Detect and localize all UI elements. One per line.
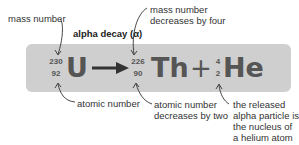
arrow-to-parent-mass-icon xyxy=(55,19,62,55)
arrow-to-parent-atomic-icon xyxy=(55,83,75,102)
arrow-to-particle-icon xyxy=(216,84,229,104)
arrow-to-daughter-atomic-icon xyxy=(133,83,152,104)
arrow-to-daughter-mass-icon xyxy=(131,8,147,55)
pointer-arrows xyxy=(0,0,299,145)
